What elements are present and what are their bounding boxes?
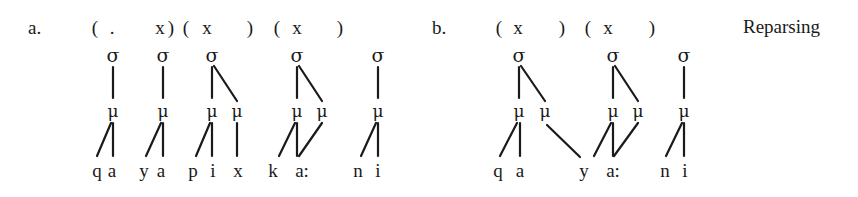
segment: a xyxy=(516,160,525,181)
mora-node: μ xyxy=(231,101,242,121)
segment: y xyxy=(139,160,149,181)
association-line xyxy=(500,123,517,156)
mora-node: μ xyxy=(157,101,168,121)
mora-node: μ xyxy=(316,101,327,121)
segment: i xyxy=(375,160,380,181)
segment: q xyxy=(493,160,503,181)
foot-bracket-mark: x xyxy=(513,17,523,38)
foot-bracket-mark: . xyxy=(110,17,115,38)
mora-node: μ xyxy=(607,101,618,121)
foot-bracket-mark: ( xyxy=(92,17,98,39)
foot-bracket-mark: ) xyxy=(247,17,253,39)
segment: k xyxy=(268,160,278,181)
syllable-node: σ xyxy=(206,44,219,66)
syllable-node: σ xyxy=(678,44,691,66)
segment: q xyxy=(92,160,102,181)
association-line xyxy=(547,125,580,157)
segment: n xyxy=(353,160,363,181)
syllable-node: σ xyxy=(372,44,385,66)
foot-bracket-mark: ( xyxy=(183,17,189,39)
panel-a-footing: a.(.x)(x)(x)σσσσσμμμμμμμqayapixka:ni xyxy=(28,17,385,181)
segment: a: xyxy=(606,160,620,181)
syllable-node: σ xyxy=(291,44,304,66)
syllable-node: σ xyxy=(513,44,526,66)
segment: i xyxy=(210,160,215,181)
foot-bracket-mark: ) xyxy=(559,17,565,39)
association-line xyxy=(299,66,322,101)
foot-bracket-mark: ( xyxy=(274,17,280,39)
prosodic-structure-diagram: a.(.x)(x)(x)σσσσσμμμμμμμqayapixka:ni b.(… xyxy=(0,0,858,197)
association-line xyxy=(214,66,237,101)
association-line xyxy=(299,123,322,156)
foot-bracket-mark: ( xyxy=(496,17,502,39)
association-line xyxy=(146,123,161,156)
association-line xyxy=(614,123,638,156)
reparsing-title: Reparsing xyxy=(743,16,821,37)
foot-bracket-mark: x xyxy=(155,17,165,38)
association-line xyxy=(279,123,295,156)
mora-node: μ xyxy=(107,101,118,121)
segment: y xyxy=(579,160,589,181)
syllable-node: σ xyxy=(107,44,120,66)
segment: n xyxy=(660,160,670,181)
mora-node: μ xyxy=(206,101,217,121)
foot-bracket-mark: ) xyxy=(337,17,343,39)
segment: i xyxy=(682,160,687,181)
panel-b-reparsed: b.(x)(x)σσσμμμμμqaya:ni xyxy=(432,17,691,181)
panel-label: b. xyxy=(432,17,446,38)
segment: p xyxy=(188,160,198,181)
segment: a xyxy=(157,160,166,181)
segment: a: xyxy=(295,160,309,181)
mora-node: μ xyxy=(539,101,550,121)
association-line xyxy=(361,123,376,156)
foot-bracket-mark: x xyxy=(202,17,212,38)
segment: x xyxy=(233,160,243,181)
mora-node: μ xyxy=(632,101,643,121)
panel-label: a. xyxy=(28,17,41,38)
foot-bracket-mark: ) xyxy=(168,17,174,39)
segment: a xyxy=(108,160,117,181)
foot-bracket-mark: x xyxy=(603,17,613,38)
association-line xyxy=(521,66,545,101)
mora-node: μ xyxy=(513,101,524,121)
syllable-node: σ xyxy=(607,44,620,66)
association-line xyxy=(594,123,611,156)
association-line xyxy=(666,123,682,156)
foot-bracket-mark: ) xyxy=(649,17,655,39)
foot-bracket-mark: ( xyxy=(585,17,591,39)
syllable-node: σ xyxy=(157,44,170,66)
association-line xyxy=(196,123,210,156)
mora-node: μ xyxy=(678,101,689,121)
foot-bracket-mark: x xyxy=(292,17,302,38)
association-line xyxy=(615,66,638,101)
mora-node: μ xyxy=(291,101,302,121)
mora-node: μ xyxy=(372,101,383,121)
association-line xyxy=(97,123,111,156)
